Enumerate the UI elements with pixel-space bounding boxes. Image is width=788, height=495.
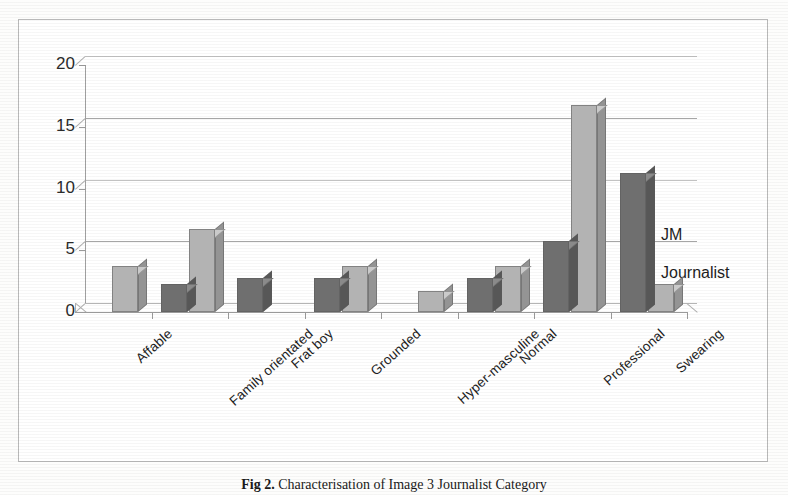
chart-frame: 05101520 AffableFamily orientatedFrat bo… (18, 19, 768, 462)
plot-area: 05101520 AffableFamily orientatedFrat bo… (19, 20, 769, 463)
bar-side (597, 98, 606, 312)
scanned-page: 05101520 AffableFamily orientatedFrat bo… (0, 0, 788, 495)
bar-face (467, 278, 493, 312)
bar-jm-7 (620, 173, 646, 312)
gridline-20 (85, 56, 697, 57)
floor-right-edge (687, 303, 697, 312)
x-tick-0 (152, 312, 153, 319)
bar-journalist-0 (112, 266, 138, 312)
bar-jm-5 (467, 278, 493, 312)
bar-face (620, 173, 646, 312)
y-tick-15 (79, 127, 86, 128)
legend-item-journalist: Journalist (643, 264, 763, 282)
y-label-0: 0 (35, 301, 75, 321)
x-tick-1 (228, 312, 229, 319)
y-tick-0 (79, 312, 86, 313)
figure-caption-number: Fig 2. (241, 477, 274, 492)
bar-jm-3 (314, 278, 340, 312)
y-tick-10 (79, 189, 86, 190)
x-tick-2 (305, 312, 306, 319)
bar-side (674, 277, 683, 312)
legend-label-journalist: Journalist (661, 264, 729, 282)
floor-left-edge (75, 303, 86, 312)
bar-face (418, 291, 444, 312)
bar-face (112, 266, 138, 312)
bar-face (237, 278, 263, 312)
y-label-15: 15 (35, 116, 75, 136)
x-tick-6 (611, 312, 612, 319)
x-tick-3 (381, 312, 382, 319)
y-label-5: 5 (35, 239, 75, 259)
legend-item-jm: JM (643, 226, 763, 244)
bar-face (161, 284, 187, 312)
bar-face (543, 241, 569, 312)
figure-caption-text: Characterisation of Image 3 Journalist C… (278, 477, 547, 492)
x-tick-4 (458, 312, 459, 319)
bar-face (314, 278, 340, 312)
y-tick-20 (79, 65, 86, 66)
legend-label-jm: JM (661, 226, 682, 244)
x-category-label-6: Professional (601, 326, 668, 388)
bar-journalist-4 (418, 291, 444, 312)
figure-caption: Fig 2. Characterisation of Image 3 Journ… (0, 477, 788, 495)
bar-jm-2 (237, 278, 263, 312)
bar-jm-6 (543, 241, 569, 312)
y-label-20: 20 (35, 54, 75, 74)
x-category-label-3: Grounded (368, 326, 424, 378)
x-category-label-7: Swearing (673, 326, 726, 376)
x-tick-7 (687, 312, 688, 319)
bar-side (646, 166, 655, 312)
x-category-label-0: Affable (134, 326, 176, 366)
y-label-10: 10 (35, 178, 75, 198)
y-tick-5 (79, 250, 86, 251)
x-category-label-4: Hyper-masculine (455, 326, 543, 407)
bar-side (263, 271, 272, 312)
y-axis-tick-labels: 05101520 (19, 20, 75, 463)
y-axis-line (85, 65, 86, 303)
bar-jm-1 (161, 284, 187, 312)
x-tick-5 (534, 312, 535, 319)
